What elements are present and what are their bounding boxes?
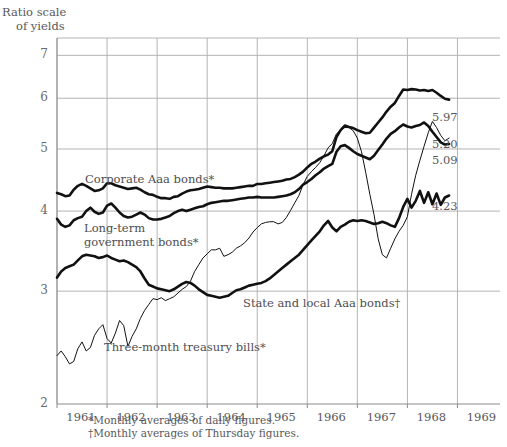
x-tick-label: 1967 — [358, 410, 404, 424]
footnote-daily-figures: *Monthly averages of daily figures. — [88, 414, 275, 427]
y-tick-label: 6 — [30, 90, 48, 104]
end-value-label-state-and-local-aaa-bonds: 4.23 — [432, 199, 458, 213]
y-tick-label: 2 — [30, 396, 48, 410]
series-label-three-month-treasury-bills: Three-month treasury bills* — [104, 340, 266, 354]
end-value-label-three-month-treasury-bills: 5.20 — [432, 137, 458, 151]
y-tick-label: 7 — [30, 47, 48, 61]
series-label-state-and-local-aaa-bonds: State and local Aaa bonds† — [243, 296, 400, 310]
series-label-long-term-government-bonds-line1: Long-term — [84, 221, 145, 235]
y-tick-label: 4 — [30, 203, 48, 217]
end-value-label-long-term-government-bonds: 5.09 — [432, 153, 458, 167]
x-tick-label: 1969 — [458, 410, 504, 424]
plot-area — [0, 0, 507, 447]
y-tick-label: 3 — [30, 283, 48, 297]
series-label-long-term-government-bonds-line2: government bonds* — [84, 235, 199, 249]
yields-chart: Ratio scale of yields Corporate Aaa bond… — [0, 0, 507, 447]
end-value-label-corporate-aaa-bonds: 5.97 — [432, 110, 458, 124]
series-label-corporate-aaa-bonds: Corporate Aaa bonds* — [85, 172, 214, 186]
y-tick-label: 5 — [30, 141, 48, 155]
x-tick-label: 1968 — [408, 410, 454, 424]
x-tick-label: 1966 — [308, 410, 354, 424]
footnote-thursday-figures: †Monthly averages of Thursday figures. — [88, 427, 299, 440]
